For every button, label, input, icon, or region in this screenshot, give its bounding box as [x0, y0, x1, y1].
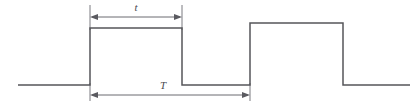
timing-diagram-svg: t T: [0, 0, 419, 109]
pulse-width-arrow-left-icon: [90, 14, 98, 20]
pulse-width-label: t: [134, 1, 138, 13]
pulse-width-dimension: t: [90, 1, 182, 20]
period-dimension: T: [90, 79, 250, 98]
pulse-waveform: [18, 23, 410, 85]
timing-diagram-figure: t T: [0, 0, 419, 109]
period-arrow-left-icon: [90, 92, 98, 98]
pulse-width-arrow-right-icon: [174, 14, 182, 20]
period-arrow-right-icon: [242, 92, 250, 98]
period-label: T: [160, 79, 167, 91]
